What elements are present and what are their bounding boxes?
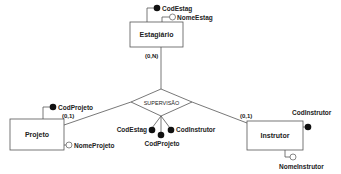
attr-label-rel-codprojeto: CodProjeto: [144, 140, 179, 148]
entity-instrutor[interactable]: Instrutor: [247, 121, 303, 150]
attr-line-codprojeto: [43, 107, 51, 119]
attr-icon: [290, 154, 296, 160]
attr-label-nomeinstrutor: NomeInstrutor: [279, 163, 324, 170]
cardinality-estagiario: (0,N): [145, 53, 158, 59]
attr-label-rel-codinstrutor: CodInstrutor: [176, 126, 216, 133]
attr-label-nomeprojeto: NomeProjeto: [74, 142, 114, 150]
edge-supervisao-instrutor: [192, 102, 247, 123]
attr-icon: [170, 14, 176, 20]
attr-line-codestag: [147, 8, 155, 22]
attr-line-rel-codinstrutor: [161, 116, 170, 128]
attr-label-rel-codestag: CodEstag: [117, 126, 147, 134]
attr-label-codprojeto: CodProjeto: [58, 104, 93, 112]
attr-label-nomeestag: NomeEstag: [177, 14, 213, 22]
cardinality-instrutor: (0,1): [240, 113, 252, 119]
key-attr-icon: [305, 124, 312, 131]
key-attr-icon: [50, 104, 57, 111]
attr-icon: [66, 142, 72, 148]
key-attr-icon: [154, 5, 161, 12]
relationship-label: SUPERVISÃO: [144, 100, 180, 106]
relationship-supervisao[interactable]: SUPERVISÃO: [131, 89, 192, 116]
attr-line-rel-codestag: [152, 116, 161, 128]
entity-label: Projeto: [25, 131, 49, 139]
entity-label: Estagiário: [140, 31, 174, 39]
entity-estagiario[interactable]: Estagiário: [130, 22, 183, 47]
attr-line-nomeestag: [162, 17, 170, 22]
er-diagram: Estagiário Projeto Instrutor SUPERVISÃO …: [0, 0, 341, 174]
key-attr-icon: [158, 132, 165, 139]
key-attr-icon: [168, 127, 175, 134]
entity-projeto[interactable]: Projeto: [10, 119, 64, 150]
attr-label-codinstrutor: CodInstrutor: [292, 109, 332, 116]
key-attr-icon: [149, 127, 156, 134]
attr-label-codestag: CodEstag: [162, 5, 192, 13]
cardinality-projeto: (0,1): [62, 113, 74, 119]
entity-label: Instrutor: [261, 132, 290, 139]
attr-line-nomeinstrutor: [285, 150, 290, 157]
